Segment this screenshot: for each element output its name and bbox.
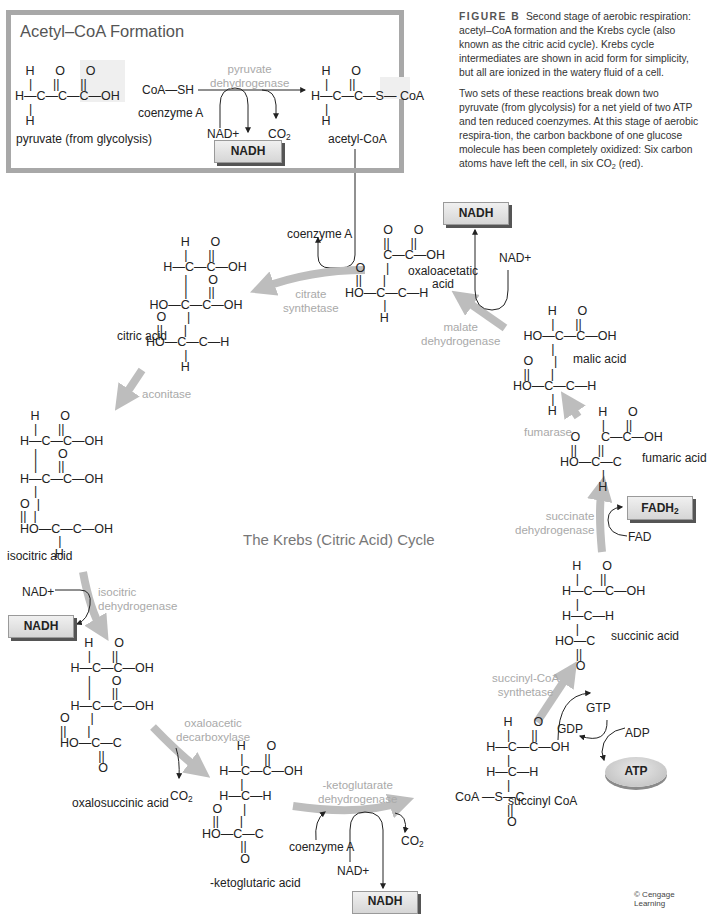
nad-keto-label: NAD+ (337, 865, 369, 877)
formula-row: H—C—H (455, 766, 538, 779)
ketoglutaric-acid-label: -ketoglutaric acid (210, 877, 301, 889)
pyruvate-label: pyruvate (from glycolysis) (16, 133, 152, 145)
coenzyme-a-release-label: coenzyme A (287, 228, 352, 240)
fadh2-box: FADH2 (627, 496, 693, 520)
citrate-synthetase-label: citrate synthetase (283, 287, 339, 316)
nadh-box-isocitric: NADH (8, 615, 74, 638)
nad-isocitric-label: NAD+ (22, 586, 54, 598)
formula-row: H O (555, 560, 612, 573)
malic-acid-label: malic acid (573, 353, 626, 365)
copyright-notice: © Cengage Learning (634, 890, 705, 908)
formula-row: H—C—C—OH (20, 435, 103, 448)
formula-row: O | (60, 712, 94, 725)
atp-disc: ATP (605, 757, 667, 787)
isocitric-acid-label: isocitric acid (7, 550, 72, 562)
adp-atp-curve (602, 728, 625, 760)
krebs-cycle-title: The Krebs (Citric Acid) Cycle (243, 531, 435, 548)
fad-label: FAD (628, 531, 651, 543)
malate-nad-curve (475, 230, 508, 310)
formula-row: O O (345, 224, 424, 237)
formula-row: | (345, 299, 386, 312)
figure-label: FIGURE B (459, 11, 520, 22)
oxalosuccinic-acid-label: oxalosuccinic acid (72, 797, 169, 809)
formula-row: H (560, 481, 607, 494)
acetyl-coa-label: acetyl-CoA (328, 133, 387, 145)
citric-acid-label: citric acid (117, 330, 167, 342)
formula-row: O | (146, 311, 190, 324)
formula-row: | || (146, 286, 215, 299)
formula-row: H O O (15, 65, 96, 78)
coenzyme-a-keto-label: coenzyme A (289, 841, 354, 853)
succinyl-coa-label: succinyl CoA (508, 795, 577, 807)
formula-row: H—C—C—C—OH (15, 90, 120, 103)
formula-row: HO—C (555, 635, 595, 648)
formula-row: H O (513, 305, 587, 318)
formula-row: H—C—H (555, 610, 614, 623)
keto-coa-curve (316, 812, 325, 840)
formula-row: H O (146, 236, 220, 249)
figure-caption: FIGURE B Second stage of aerobic respira… (459, 10, 701, 181)
coenzyme-a-formula: CoA—SH (142, 84, 194, 96)
malate-dehydrogenase-label: malate dehydrogenase (421, 320, 500, 349)
formula-row: H (513, 405, 557, 418)
gdp-label: GDP (557, 723, 583, 735)
formula-row: H—C—H (202, 790, 271, 803)
co2-oxalo-label: CO2 (170, 790, 193, 804)
formula-row: H—C—C—OH (555, 585, 645, 598)
formula-row: O (555, 660, 586, 673)
adp-label: ADP (625, 727, 650, 739)
formula-row: HO—C—C (60, 737, 122, 750)
formula-row: | (20, 535, 61, 548)
formula-row: H O (311, 65, 361, 78)
acetyl-panel-title: Acetyl–CoA Formation (20, 22, 184, 41)
formula-row: H (311, 115, 330, 128)
ketoglutarate-dehydrogenase-label: -ketoglutarate dehydrogenase (318, 778, 397, 807)
formula-row: H O (20, 410, 70, 423)
fumarase-label: fumarase (524, 425, 572, 439)
formula-row: || | (202, 815, 243, 828)
fad-curve (608, 507, 627, 536)
oxaloacetic-decarboxylase-label: oxaloacetic decarboxylase (176, 716, 250, 745)
succinate-dehydrogenase-label: succinate dehydrogenase (515, 509, 594, 538)
formula-row: H (345, 312, 389, 325)
formula-row: H O (455, 716, 543, 729)
formula-row: || (202, 840, 247, 853)
aconitase-label: aconitase (142, 387, 191, 401)
formula-row: H—C—C—S— CoA (311, 90, 424, 103)
formula-row: O (455, 816, 517, 829)
formula-row: H—C—C—OH (202, 765, 303, 778)
nadh-box-acetyl: NADH (214, 140, 282, 163)
isocitric-dehydrogenase-label: isocitric dehydrogenase (98, 585, 177, 614)
fumaric-acid-label: fumaric acid (642, 452, 707, 464)
formula-row: H—C—C—OH (455, 741, 570, 754)
oxaloacetatic-acid-label: oxaloacetatic acid (408, 265, 478, 291)
pyruvate-dehydrogenase-label: pyruvate dehydrogenase (210, 62, 289, 91)
succinate-dehydrogenase-arrow (600, 488, 602, 552)
formula-row: O (60, 762, 108, 775)
nad-malate-label: NAD+ (499, 252, 531, 264)
formula-row: || | (345, 274, 386, 287)
aconitase-arrow (122, 370, 142, 400)
succinyl-coa-synthetase-label: succinyl-CoA synthetase (492, 671, 559, 700)
nad-label: NAD+ (207, 128, 239, 140)
co2-keto-label: CO2 (401, 835, 424, 849)
gtp-label: GTP (586, 702, 611, 714)
formula-row: O | (513, 355, 557, 368)
formula-row: | (20, 485, 37, 498)
keto-co2-curve (395, 813, 406, 832)
formula-row: | || (20, 460, 64, 473)
formula-row: || | (20, 510, 37, 523)
coenzyme-a-label: coenzyme A (138, 107, 203, 119)
formula-row: H O (560, 406, 638, 419)
formula-row: C—C—OH (345, 249, 445, 262)
caption-paragraph-2: Two sets of these reactions break down t… (459, 87, 701, 174)
formula-row: HO—C—C (560, 456, 622, 469)
formula-row: H O (60, 637, 124, 650)
formula-row: HO—C—C—H (513, 380, 596, 393)
formula-row: H—C—C—OH (60, 662, 154, 675)
formula-row: | || (60, 687, 118, 700)
gdp-cycle-curve (580, 720, 607, 738)
formula-row: O (202, 853, 250, 866)
nadh-box-malate: NADH (443, 202, 509, 225)
succinic-acid-label: succinic acid (611, 630, 679, 642)
